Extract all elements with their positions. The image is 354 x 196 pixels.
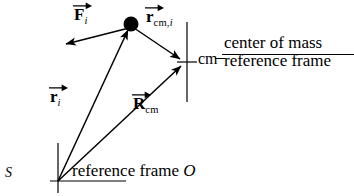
label-r-i-vector: r i	[50, 88, 61, 105]
vector-r-i-arrow	[58, 30, 128, 181]
R-cm-subscript: cm	[145, 104, 158, 115]
r-i-symbol-letter: r	[50, 87, 58, 106]
force-vector-symbol: F	[74, 6, 84, 23]
r-i-vector-symbol: r	[50, 88, 58, 105]
vector-force-arrow	[66, 28, 129, 44]
r-cm-i-symbol-letter: r	[146, 7, 154, 26]
cm-frame-line-1: center of mass	[224, 34, 331, 52]
label-r-cm-i-vector: r cm,i	[146, 8, 173, 25]
label-force-vector: F i	[74, 6, 88, 23]
reference-frame-text: reference frame	[72, 161, 183, 180]
r-cm-i-subscript-index: i	[170, 17, 173, 28]
cm-frame-underline-rule	[222, 54, 354, 55]
physics-vector-diagram: F i r cm,i r i R cm	[0, 0, 354, 196]
label-origin-S: S	[5, 166, 12, 180]
label-reference-frame-O: reference frame O	[72, 162, 196, 179]
force-subscript: i	[84, 15, 87, 26]
r-i-subscript: i	[58, 97, 61, 108]
cm-frame-line-2: reference frame	[224, 52, 331, 70]
label-R-cm-vector: R cm	[133, 95, 159, 112]
r-cm-i-subscript: cm,	[154, 17, 170, 28]
particle-dot	[124, 17, 139, 32]
vector-r-cm-i-arrow	[134, 28, 180, 59]
label-cm-point: cm	[198, 51, 218, 67]
r-cm-i-vector-symbol: r	[146, 8, 154, 25]
R-cm-vector-symbol: R	[133, 95, 145, 112]
force-symbol-letter: F	[74, 5, 84, 24]
reference-frame-letter: O	[183, 161, 195, 180]
label-cm-reference-frame: center of mass reference frame	[224, 34, 331, 71]
R-cm-symbol-letter: R	[133, 94, 145, 113]
